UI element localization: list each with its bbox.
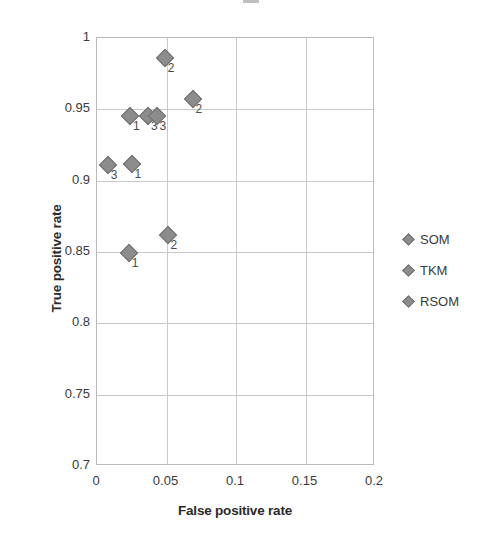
diamond-marker-icon: [402, 264, 415, 277]
legend-label: SOM: [420, 233, 450, 246]
gridline-vertical: [306, 38, 307, 464]
x-tick-label: 0.15: [292, 474, 317, 487]
diamond-marker-icon: [402, 233, 415, 246]
legend-item-tkm[interactable]: TKM: [404, 255, 490, 286]
x-tick-label: 0.05: [153, 474, 178, 487]
chart-legend: SOM TKM RSOM: [404, 224, 490, 317]
gridline-horizontal: [97, 109, 373, 110]
y-tick-label: 0.85: [65, 244, 90, 257]
data-point-label: 3: [111, 169, 118, 181]
legend-item-rsom[interactable]: RSOM: [404, 286, 490, 317]
data-point-label: 2: [168, 62, 175, 74]
y-tick-label: 1: [83, 30, 90, 43]
data-point-label: 1: [132, 257, 139, 269]
y-tick-label: 0.9: [72, 173, 90, 186]
gridline-horizontal: [97, 395, 373, 396]
y-tick-label: 0.75: [65, 387, 90, 400]
x-axis-title: False positive rate: [96, 503, 374, 518]
legend-item-som[interactable]: SOM: [404, 224, 490, 255]
data-point-label: 2: [196, 103, 203, 115]
gridline-vertical: [236, 38, 237, 464]
plot-area: 111222333: [96, 37, 374, 465]
y-tick-label: 0.95: [65, 101, 90, 114]
data-point-label: 2: [171, 239, 178, 251]
data-point-label: 3: [159, 120, 166, 132]
legend-label: RSOM: [420, 295, 459, 308]
y-axis-title: True positive rate: [49, 159, 64, 359]
x-tick-label: 0.1: [226, 474, 244, 487]
data-point-label: 1: [133, 120, 140, 132]
x-tick-label: 0.2: [365, 474, 383, 487]
legend-label: TKM: [420, 264, 447, 277]
gridline-horizontal: [97, 181, 373, 182]
data-point-label: 1: [134, 168, 141, 180]
roc-scatter-chart: 111222333 0.70.750.80.850.90.951 00.050.…: [0, 0, 496, 546]
gridline-vertical: [167, 38, 168, 464]
cropped-title-sliver: [243, 0, 259, 3]
gridline-horizontal: [97, 323, 373, 324]
y-tick-label: 0.7: [72, 458, 90, 471]
y-tick-label: 0.8: [72, 315, 90, 328]
diamond-marker-icon: [402, 295, 415, 308]
x-tick-label: 0: [92, 474, 99, 487]
